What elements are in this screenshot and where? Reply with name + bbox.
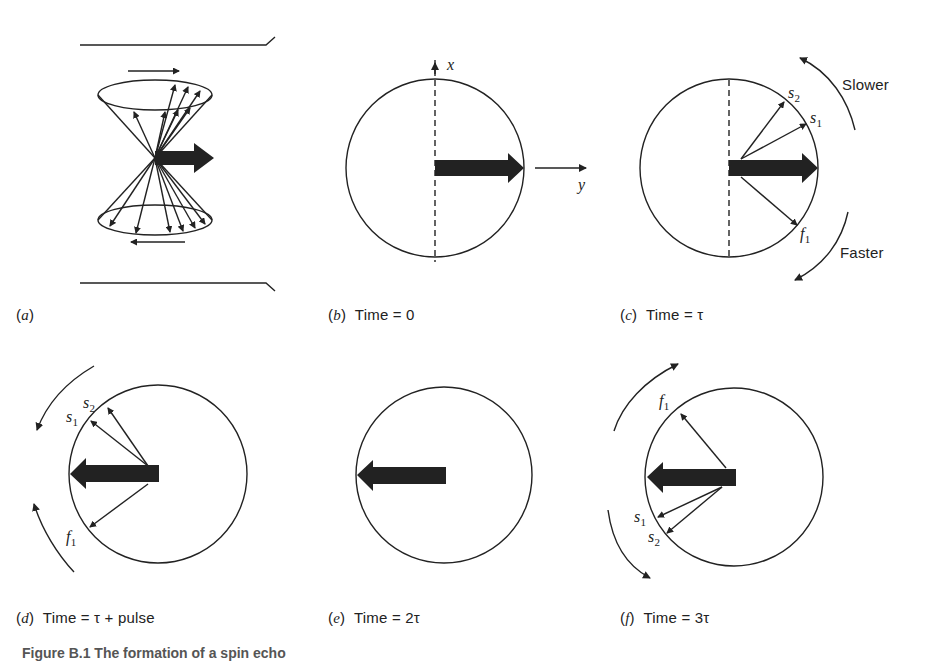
panel-c-caption: (c) Time = τ [620,306,703,324]
panel-a-caption: (a) [16,306,34,324]
panel-e-time-2tau [356,387,532,563]
vector-label-s2-d: s2 [83,394,95,414]
y-axis-label: y [576,176,586,194]
magnet-top-bar [80,37,275,45]
vector-label-s1: s1 [810,109,822,129]
panel-c-time-tau [640,58,855,280]
vector-label-s1-d: s1 [66,408,78,428]
panel-f-caption: (f) Time = 3τ [620,609,709,627]
vector-label-f1: f1 [800,225,810,245]
panel-b-caption: (b) Time = 0 [328,306,415,324]
panel-a-cone [80,37,275,291]
vector-label-s2: s2 [788,84,800,104]
vector-label-f1-f: f1 [659,392,669,412]
slower-annotation: Slower [842,76,889,93]
magnet-bottom-bar [80,283,275,291]
panel-f-time-3tau [608,364,823,578]
vector-label-f1-d: f1 [66,528,76,548]
panel-d-caption: (d) Time = τ + pulse [16,609,155,627]
vector-label-s1-f: s1 [634,508,646,528]
faster-annotation: Faster [840,244,884,261]
panel-e-caption: (e) Time = 2τ [328,609,420,627]
vector-label-s2-f: s2 [648,528,660,548]
panel-b-time0 [346,60,586,262]
figure-caption: Figure B.1 The formation of a spin echo [22,645,286,661]
x-axis-label: x [446,56,454,73]
